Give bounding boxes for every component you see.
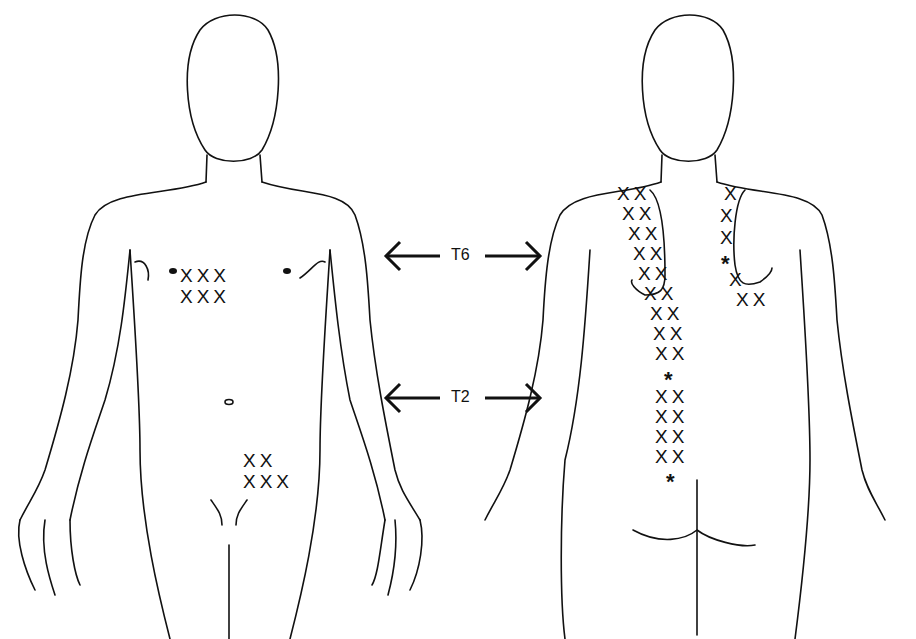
back-right-mark: X: [724, 184, 741, 204]
back-right-mark: X: [729, 270, 746, 290]
back-right-mark: X: [720, 228, 737, 248]
t6-label: T6: [451, 246, 470, 264]
nipple-left: [169, 268, 177, 274]
back-left-mark: XX: [617, 184, 650, 204]
back-left-mark: XX: [655, 407, 688, 427]
chest-marks-row-2: XXX: [180, 287, 230, 307]
back-left-mark: XX: [638, 264, 671, 284]
groin-marks-row-1: XX: [243, 451, 276, 471]
back-left-mark: XX: [622, 204, 655, 224]
back-left-mark: XX: [628, 224, 661, 244]
back-left-mark: XX: [655, 447, 688, 467]
body-outlines: [0, 0, 916, 639]
front-head: [187, 15, 278, 161]
back-head: [642, 15, 733, 161]
navel: [225, 400, 233, 405]
back-left-mark: XX: [655, 387, 688, 407]
back-right-mark: XX: [736, 290, 769, 310]
back-star-2: *: [666, 472, 675, 492]
level-arrows: [386, 242, 540, 412]
front-figure: [19, 15, 422, 639]
nipple-right: [283, 268, 291, 274]
back-left-mark: XX: [655, 344, 688, 364]
back-left-mark: XX: [644, 284, 677, 304]
back-left-mark: XX: [655, 427, 688, 447]
back-left-mark: XX: [650, 304, 683, 324]
groin-marks-row-2: XXX: [243, 472, 293, 492]
back-left-mark: XX: [653, 324, 686, 344]
t2-label: T2: [451, 388, 470, 406]
back-left-mark: XX: [633, 244, 666, 264]
back-right-mark: X: [720, 206, 737, 226]
chest-marks-row-1: XXX: [180, 266, 230, 286]
